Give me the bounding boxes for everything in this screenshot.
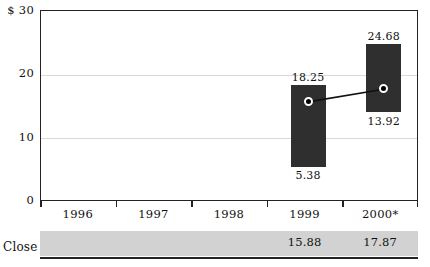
x-tick-mark-2 [191, 201, 193, 207]
x-tick-label-1999: 1999 [267, 208, 343, 220]
y-tick-label-30: $ 30 [0, 5, 34, 17]
value-label-low-1999: 5.38 [283, 170, 333, 181]
y-tick-label-10: 10 [0, 132, 34, 144]
value-label-high-2000: 24.68 [359, 31, 409, 42]
x-tick-label-1998: 1998 [191, 208, 267, 220]
chart-canvas: $ 30 20 10 0 1996 1997 1998 1999 2000* 1… [0, 0, 430, 267]
y-tick-label-20: 20 [0, 68, 34, 80]
close-value-2000: 17.87 [342, 236, 418, 248]
x-tick-mark-3 [267, 201, 269, 207]
x-tick-label-1997: 1997 [116, 208, 192, 220]
x-tick-mark-4 [342, 201, 344, 207]
value-label-low-2000: 13.92 [359, 116, 409, 127]
x-tick-mark-5 [417, 201, 419, 207]
close-marker-1999 [304, 97, 313, 106]
close-value-1999: 15.88 [267, 236, 343, 248]
x-tick-label-2000: 2000* [342, 208, 418, 220]
x-tick-mark-1 [116, 201, 118, 207]
value-label-high-1999: 18.25 [283, 72, 333, 83]
y-tick-label-0: 0 [0, 195, 34, 207]
x-tick-mark-0 [40, 201, 42, 207]
close-row-rule [40, 257, 418, 259]
x-tick-label-1996: 1996 [40, 208, 116, 220]
close-row-label: Close [3, 241, 38, 254]
